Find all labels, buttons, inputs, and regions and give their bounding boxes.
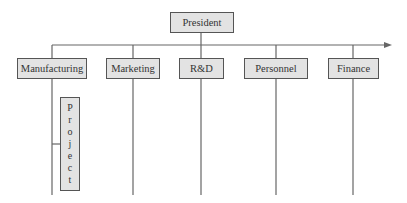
department-label: Manufacturing	[21, 63, 83, 74]
project-letter: r	[68, 115, 71, 125]
president-label: President	[182, 17, 221, 28]
department-label: Marketing	[111, 63, 155, 74]
arrow-head-icon	[384, 42, 392, 48]
department-box-marketing: Marketing	[106, 58, 160, 79]
president-box: President	[170, 12, 234, 33]
department-box-rnd: R&D	[179, 58, 224, 79]
department-box-manufacturing: Manufacturing	[17, 58, 87, 79]
department-box-personnel: Personnel	[244, 58, 308, 79]
project-letter: c	[68, 163, 72, 173]
project-letter: P	[67, 103, 73, 113]
department-label: Finance	[337, 63, 370, 74]
project-letter: j	[69, 139, 72, 149]
project-letter: o	[68, 127, 73, 137]
project-letter: e	[68, 151, 72, 161]
department-box-finance: Finance	[328, 58, 379, 79]
project-letter: t	[69, 175, 72, 185]
project-box: P r o j e c t	[60, 97, 80, 191]
department-label: R&D	[190, 63, 213, 74]
department-label: Personnel	[255, 63, 296, 74]
